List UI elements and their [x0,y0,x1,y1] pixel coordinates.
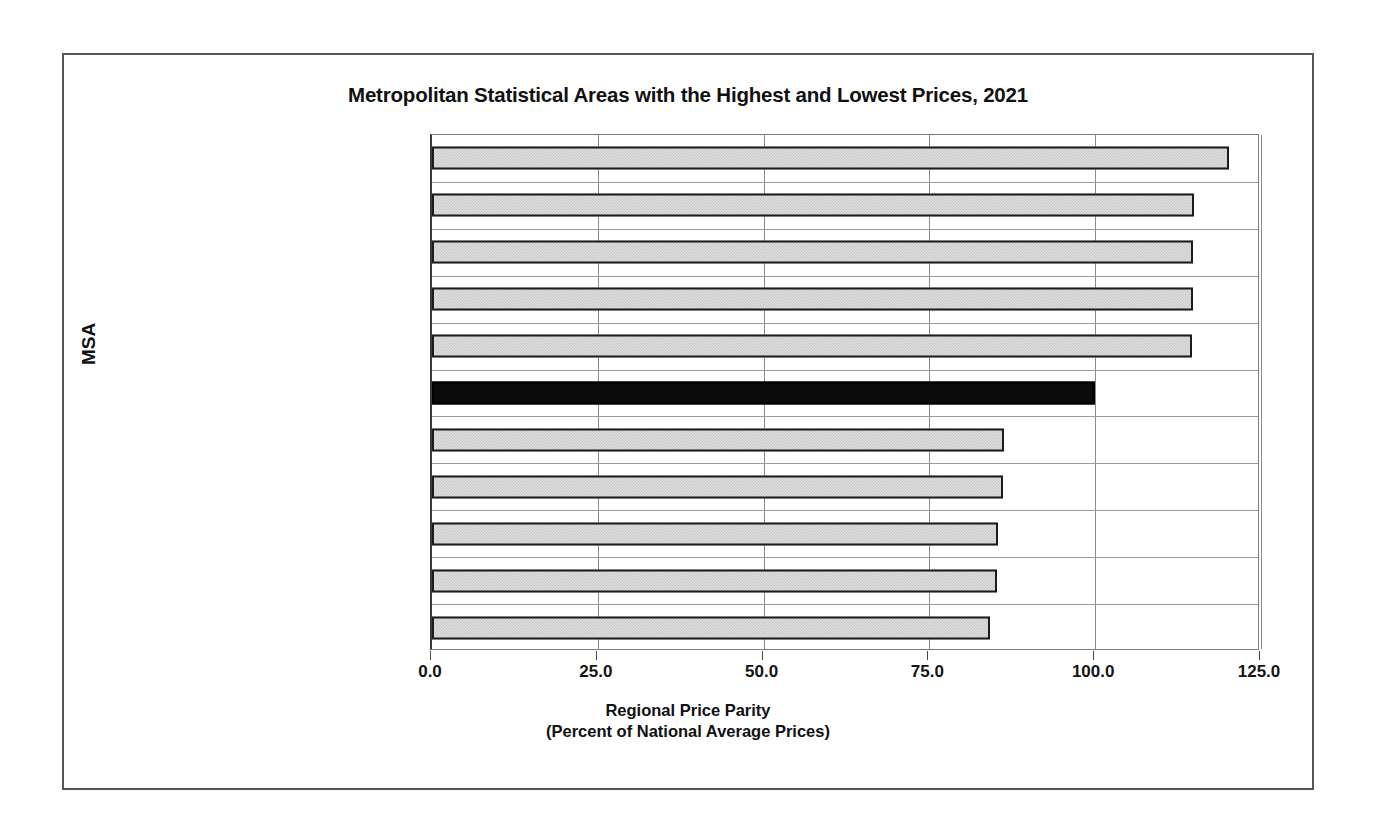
bar[interactable] [432,616,990,639]
chart-frame: Metropolitan Statistical Areas with the … [62,53,1314,790]
bar-row [432,370,1258,417]
x-axis-title-line2: (Percent of National Average Prices) [64,721,1312,742]
bar-row [432,323,1258,370]
bar[interactable] [432,475,1003,498]
y-axis-title: MSA [78,323,100,365]
x-tick [927,651,928,660]
x-tick [430,651,431,660]
x-tick [1093,651,1094,660]
x-tick-label: 75.0 [911,662,944,682]
bar-row [432,182,1258,229]
bar-row [432,510,1258,557]
x-tick [762,651,763,660]
gridline-125.0 [1261,135,1262,649]
bar[interactable] [432,335,1192,358]
chart-title: Metropolitan Statistical Areas with the … [64,83,1312,107]
x-tick-label: 100.0 [1072,662,1115,682]
x-axis-title: Regional Price Parity (Percent of Nation… [64,700,1312,741]
bar-row [432,557,1258,604]
bar[interactable] [432,241,1193,264]
bar-row [432,604,1258,651]
x-axis-title-line1: Regional Price Parity [64,700,1312,721]
bar[interactable] [432,147,1229,170]
x-tick-label: 125.0 [1238,662,1281,682]
x-tick-label: 25.0 [579,662,612,682]
x-tick [596,651,597,660]
bar[interactable] [432,288,1193,311]
bar[interactable] [432,569,997,592]
x-tick-label: 50.0 [745,662,778,682]
x-tick [1259,651,1260,660]
bar-row [432,229,1258,276]
bar[interactable] [432,381,1095,404]
plot-area [430,134,1259,650]
bar[interactable] [432,522,998,545]
bar-row [432,135,1258,182]
bar-row [432,463,1258,510]
x-tick-label: 0.0 [418,662,442,682]
bar[interactable] [432,194,1194,217]
bar[interactable] [432,428,1004,451]
bar-row [432,276,1258,323]
bar-row [432,416,1258,463]
